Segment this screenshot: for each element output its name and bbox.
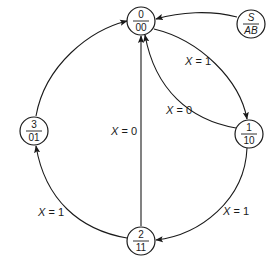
svg-text:11: 11 bbox=[136, 242, 147, 253]
state-node-2: 2 11 bbox=[127, 227, 155, 255]
svg-text:10: 10 bbox=[243, 135, 255, 146]
edge-label-s2-s3: X = 1 bbox=[37, 206, 64, 218]
edge-s3-to-s0 bbox=[36, 21, 127, 116]
svg-text:2: 2 bbox=[138, 229, 144, 240]
state-node-3: 3 01 bbox=[20, 117, 48, 145]
edge-label-s0-s1: X = 1 bbox=[184, 55, 211, 67]
edge-label-s2-s0: X = 0 bbox=[110, 125, 137, 137]
edge-s1-to-s2 bbox=[156, 148, 247, 240]
svg-text:0: 0 bbox=[138, 9, 144, 20]
svg-text:1: 1 bbox=[246, 122, 252, 133]
state-node-1: 1 10 bbox=[235, 120, 263, 148]
svg-text:S: S bbox=[248, 12, 255, 23]
svg-text:00: 00 bbox=[135, 22, 147, 33]
legend-node: S AB bbox=[237, 10, 265, 38]
state-node-0: 0 00 bbox=[127, 7, 155, 35]
edge-legend-to-s0 bbox=[156, 13, 237, 19]
svg-text:3: 3 bbox=[31, 119, 37, 130]
svg-text:AB: AB bbox=[243, 25, 258, 36]
state-diagram: X = 1 X = 0 X = 1 X = 0 X = 1 S AB 0 00 … bbox=[0, 0, 277, 263]
svg-text:01: 01 bbox=[28, 132, 40, 143]
edge-label-s1-s2: X = 1 bbox=[222, 205, 249, 217]
edge-s2-to-s3 bbox=[36, 146, 127, 238]
edge-label-s1-s0: X = 0 bbox=[165, 104, 192, 116]
